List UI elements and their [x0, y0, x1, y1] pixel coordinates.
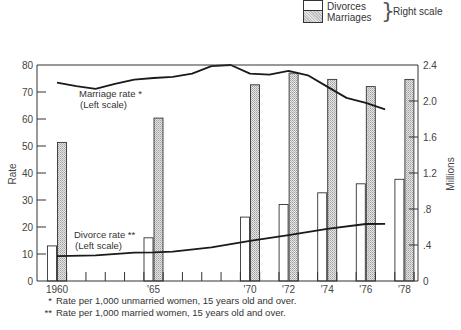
divorces-bar: [395, 179, 404, 281]
marriages-bar: [328, 79, 337, 281]
y-axis-right-title: Millions: [445, 157, 456, 190]
legend-divorces-label: Divorces: [327, 1, 371, 12]
y-left-tick-label: 60: [22, 114, 34, 125]
y-left-tick-label: 10: [22, 249, 34, 260]
y-right-tick-label: 1.2: [423, 168, 437, 179]
footnote-double-text: Rate per 1,000 married women, 15 years o…: [56, 307, 286, 318]
divorces-swatch: [303, 0, 323, 11]
marriage-rate-scale-label: (Left scale): [80, 99, 127, 110]
marriages-bar: [58, 142, 67, 281]
divorces-bar: [241, 217, 250, 281]
y-left-tick-label: 20: [22, 222, 34, 233]
x-tick-label: '70: [243, 284, 256, 295]
x-tick-label: '74: [321, 284, 334, 295]
x-tick-label: '72: [282, 284, 295, 295]
legend-labels: Divorces Marriages: [327, 1, 371, 23]
footnote-single: *Rate per 1,000 unmarried women, 15 year…: [40, 295, 296, 307]
marriages-bar: [366, 87, 375, 281]
y-axis-left-title: Rate: [7, 163, 18, 185]
marriages-bar: [405, 79, 414, 281]
y-left-tick-label: 0: [27, 276, 33, 287]
y-right-tick-label: 1.6: [423, 132, 437, 143]
y-left-tick-label: 80: [22, 60, 34, 71]
y-left-tick-label: 40: [22, 168, 34, 179]
marriages-bar: [289, 73, 298, 281]
y-right-tick-label: 2.0: [423, 96, 437, 107]
footnote-double: **Rate per 1,000 married women, 15 years…: [40, 307, 296, 319]
marriage-rate-label: Marriage rate *: [79, 88, 142, 99]
chart-canvas: 010203040506070800.4.81.21.62.02.41960'6…: [0, 0, 461, 330]
legend-scale-label: Right scale: [393, 6, 442, 17]
y-left-tick-label: 30: [22, 195, 34, 206]
y-left-tick-label: 50: [22, 141, 34, 152]
footnote-single-mark: *: [40, 295, 52, 307]
y-left-tick-label: 70: [22, 87, 34, 98]
x-tick-label: '78: [398, 284, 411, 295]
marriages-bar: [154, 118, 163, 281]
x-tick-label: 1960: [46, 284, 69, 295]
divorces-bar: [356, 184, 365, 281]
legend-marriages-label: Marriages: [327, 12, 371, 23]
y-right-tick-label: 2.4: [423, 60, 437, 71]
x-tick-label: '65: [147, 284, 160, 295]
divorces-bar: [48, 246, 57, 281]
legend-swatches: [303, 0, 323, 23]
y-right-tick-label: 0: [423, 276, 429, 287]
y-right-tick-label: .4: [423, 240, 432, 251]
x-tick-label: '76: [359, 284, 372, 295]
y-right-tick-label: .8: [423, 204, 432, 215]
divorces-bar: [144, 238, 153, 281]
marriages-swatch: [303, 11, 323, 23]
divorces-bar: [279, 205, 288, 282]
footnote-single-text: Rate per 1,000 unmarried women, 15 years…: [56, 295, 296, 306]
divorce-rate-scale-label: (Left scale): [75, 240, 122, 251]
footnotes: *Rate per 1,000 unmarried women, 15 year…: [40, 295, 296, 319]
marriages-bar: [251, 85, 260, 281]
divorce-rate-label: Divorce rate **: [74, 229, 136, 240]
divorces-bar: [318, 193, 327, 281]
footnote-double-mark: **: [40, 307, 52, 319]
